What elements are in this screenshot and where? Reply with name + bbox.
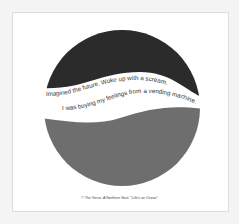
pepsi-style-circle-artwork: Imagined the future. Woke up with a scre… [0,0,239,224]
caption: © The Verve, A Northern Soul, "Life's an… [0,196,239,200]
